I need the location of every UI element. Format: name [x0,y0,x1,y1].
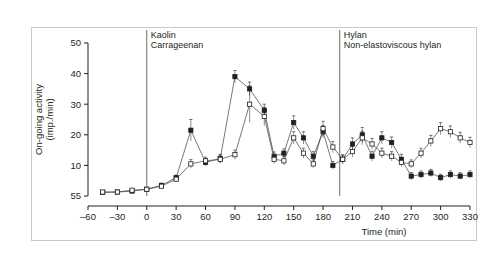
x-tick-label: 0 [144,211,149,222]
data-point-open-square [301,151,305,155]
y-tick-label: 50 [70,37,81,48]
chart-canvas: 551020304050–60–300306090120150180210240… [0,0,494,273]
data-point-filled-square [350,142,354,146]
data-point-open-square [248,102,252,106]
data-point-open-square [341,157,345,161]
annotation-label-line1: Kaolin [151,30,176,40]
annotation-label-line1: Hylan [344,30,367,40]
y-tick-label: 20 [70,129,81,140]
data-point-open-square [115,190,119,194]
data-point-open-square [292,136,296,140]
data-point-open-square [439,127,443,131]
x-tick-label: 330 [462,211,478,222]
x-tick-label: 210 [345,211,361,222]
data-point-filled-square [233,75,237,79]
data-point-open-square [282,159,286,163]
y-tick-label: 10 [70,160,81,171]
figure-panel: 551020304050–60–300306090120150180210240… [0,0,494,273]
data-point-open-square [159,184,163,188]
data-point-open-square [360,136,364,140]
data-point-open-square [130,188,134,192]
x-tick-label: 180 [315,211,331,222]
data-point-open-square [189,162,193,166]
y-tick-label: 55 [70,190,81,201]
x-tick-label: 120 [256,211,272,222]
data-point-filled-square [458,174,462,178]
data-point-open-square [203,159,207,163]
data-point-open-square [350,150,354,154]
y-axis-title: On-going activity(imp./min) [33,84,55,155]
data-point-open-square [380,151,384,155]
data-point-filled-square [439,176,443,180]
data-point-open-square [101,190,105,194]
data-point-open-square [429,139,433,143]
data-point-open-square [390,154,394,158]
x-tick-label: 240 [374,211,390,222]
data-point-open-square [218,157,222,161]
series-line-0 [103,77,470,193]
data-point-filled-square [468,172,472,176]
data-point-filled-square [292,120,296,124]
annotation-label-line2: Non-elastoviscous hylan [344,40,442,50]
data-point-filled-square [189,128,193,132]
data-point-filled-square [380,136,384,140]
data-point-open-square [419,151,423,155]
data-point-filled-square [429,171,433,175]
data-point-open-square [458,136,462,140]
x-tick-label: 270 [403,211,419,222]
data-point-open-square [448,130,452,134]
x-tick-label: 300 [433,211,449,222]
y-tick-label: 30 [70,99,81,110]
x-tick-label: 90 [230,211,241,222]
data-point-filled-square [419,172,423,176]
x-axis-title: Time (min) [361,226,406,237]
annotation-label-line2: Carrageenan [151,40,204,50]
data-point-open-square [468,140,472,144]
data-point-open-square [174,177,178,181]
x-tick-label: –60 [80,211,96,222]
series-line-1 [103,104,470,192]
data-point-filled-square [282,151,286,155]
y-axis-title-line: On-going activity [33,84,44,155]
data-point-open-square [272,157,276,161]
data-point-open-square [321,127,325,131]
data-point-filled-square [409,174,413,178]
data-point-open-square [399,160,403,164]
x-tick-label: –30 [109,211,125,222]
data-point-filled-square [390,140,394,144]
y-tick-label: 40 [70,68,81,79]
data-point-open-square [262,114,266,118]
data-point-open-square [370,142,374,146]
x-tick-label: 30 [171,211,182,222]
x-tick-label: 60 [200,211,211,222]
data-point-open-square [145,187,149,191]
data-point-filled-square [448,172,452,176]
data-point-open-square [331,145,335,149]
y-axis-title-line: (imp./min) [44,98,55,140]
data-point-filled-square [301,136,305,140]
data-point-filled-square [370,154,374,158]
data-point-open-square [233,153,237,157]
x-tick-label: 150 [286,211,302,222]
data-point-filled-square [331,163,335,167]
data-point-open-square [409,162,413,166]
data-point-open-square [311,162,315,166]
